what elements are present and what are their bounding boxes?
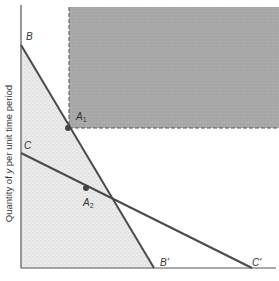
label-a2-main: A <box>83 197 90 208</box>
label-a1-main: A <box>76 111 83 122</box>
label-c: C <box>24 141 31 151</box>
budget-constraint-diagram <box>0 0 279 281</box>
label-a1: A1 <box>76 112 87 123</box>
label-a1-sub: 1 <box>83 116 87 123</box>
y-axis-label: Quantity of y per unit time period <box>3 64 14 244</box>
point-a2 <box>83 185 89 191</box>
label-c-prime: C' <box>252 258 261 268</box>
label-a2: A2 <box>83 198 94 209</box>
point-a1 <box>65 125 71 131</box>
y-axis-label-variable: y <box>3 169 14 174</box>
label-b: B <box>26 32 33 42</box>
y-axis-label-prefix: Quantity of <box>3 174 14 223</box>
label-b-prime: B' <box>160 258 169 268</box>
label-a2-sub: 2 <box>90 202 94 209</box>
y-axis-label-suffix: per unit time period <box>3 85 14 169</box>
preferred-region <box>69 7 279 128</box>
